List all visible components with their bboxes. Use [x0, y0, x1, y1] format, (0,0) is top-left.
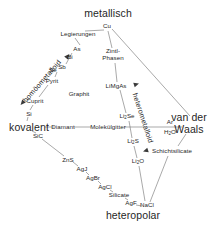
compound-agbr: AgBr: [86, 175, 100, 181]
compound-agf: AgF: [125, 200, 137, 206]
compound-zintl-phasen: Zintl-Phasen: [102, 48, 123, 62]
compound-as: As: [73, 46, 80, 52]
compound-si: Si: [26, 111, 32, 117]
edge-li2s-li2o: [134, 146, 137, 158]
compound-ar: Ar: [167, 119, 173, 125]
compound-sic: SiC: [33, 133, 43, 139]
compound-diamant: Diamant: [51, 124, 74, 130]
compound-li2s: Li2S: [127, 138, 139, 145]
edge-cu-zintl: [108, 31, 112, 48]
compound-nacl: NaCl: [140, 202, 154, 208]
compound-pyrit: Pyrit: [46, 78, 59, 84]
bonding-triangle-diagram: metallisch kovalent van der Waals hetero…: [0, 0, 216, 228]
compound-legierungen: Legierungen: [61, 31, 96, 37]
compound-agcl: AgCl: [98, 184, 112, 190]
corner-van-der-waals: van der Waals: [171, 112, 207, 136]
compound-sb: Sb: [58, 64, 66, 70]
arrow-hetero-upper: [133, 81, 139, 87]
compound-h2o: H2O: [164, 129, 176, 136]
compound-cuprit: Cuprit: [27, 98, 44, 104]
compound-molekuelgitter: Molekülgitter: [90, 124, 126, 130]
edge-limgas-li2se: [120, 90, 126, 113]
compound-li2o: Li2O: [132, 158, 144, 165]
compound-li2se: Li2Se: [119, 113, 134, 120]
compound-se: Se: [49, 67, 57, 73]
corner-van-der-waals-line1: van der: [171, 112, 207, 124]
edge-schicht-nacl: [150, 156, 168, 202]
compound-zintl-phasen-line2: Phasen: [102, 55, 123, 62]
edge-zintl-limgas: [115, 63, 117, 82]
compound-bi: Bi: [67, 54, 73, 60]
edge-sic-zns: [42, 139, 64, 156]
compound-cu: Cu: [103, 23, 111, 29]
compound-graphit: Graphit: [69, 91, 90, 97]
edge-li2se-li2s: [129, 121, 132, 138]
compound-silicate: Silicate: [109, 192, 129, 198]
edge-cu-vdw: [112, 29, 190, 116]
corner-van-der-waals-line2: Waals: [171, 124, 207, 136]
arrow-hetero-lower: [142, 148, 148, 154]
compound-limgas: LiMgAs: [106, 83, 127, 89]
edge-li2o-nacl: [139, 166, 145, 201]
corner-heteropolar: heteropolar: [106, 210, 160, 221]
edge-vdw-schicht: [178, 134, 186, 146]
compound-zns: ZnS: [62, 157, 74, 163]
corner-metallisch: metallisch: [84, 8, 132, 19]
corner-kovalent: kovalent: [9, 122, 49, 133]
compound-schichtsilicate: Schichtsilicate: [152, 148, 192, 154]
compound-agj: AgJ: [77, 166, 88, 172]
